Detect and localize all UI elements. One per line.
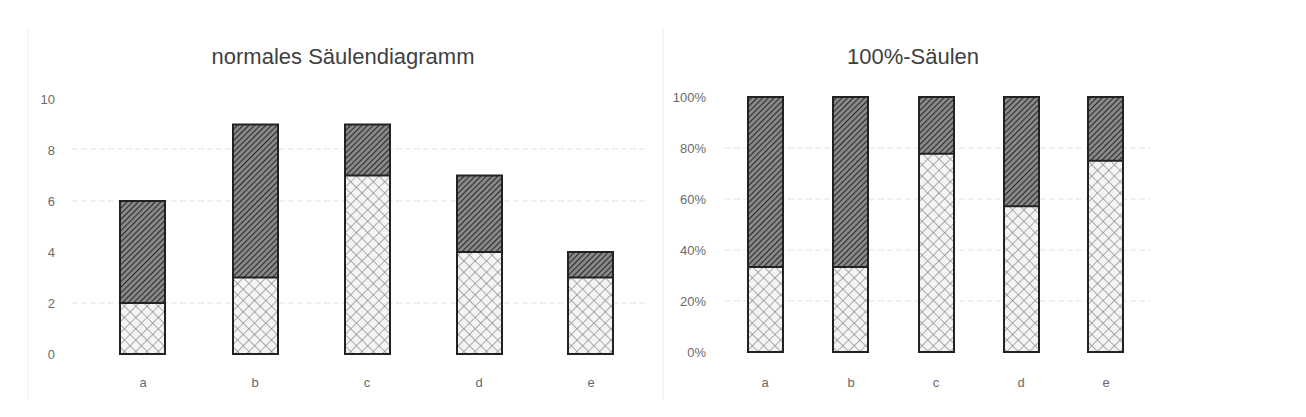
x-category: b [251, 375, 258, 390]
y-tick: 0 [48, 347, 55, 362]
left-chart: normales Säulendiagramm 0 2 4 6 8 10 [28, 28, 645, 400]
right-bar-c[interactable] [919, 97, 954, 352]
left-bar-a[interactable] [120, 201, 165, 354]
left-bar-b[interactable] [233, 125, 278, 355]
left-x-axis: a b c d e [139, 375, 594, 390]
y-tick: 10 [41, 92, 55, 107]
right-bar-e[interactable] [1088, 97, 1123, 352]
left-chart-title: normales Säulendiagramm [212, 44, 475, 69]
y-tick: 8 [48, 143, 55, 158]
left-bar-d[interactable] [457, 176, 502, 355]
y-tick: 6 [48, 194, 55, 209]
y-tick: 4 [48, 245, 55, 260]
left-bar-e[interactable] [568, 252, 613, 354]
y-tick: 80% [680, 141, 706, 156]
x-category: b [847, 375, 854, 390]
left-bar-c[interactable] [345, 125, 390, 355]
right-chart: 100%-Säulen 0% 20% 40% 60% 80% 100% [663, 28, 1150, 400]
x-category: e [1102, 375, 1109, 390]
charts-canvas: normales Säulendiagramm 0 2 4 6 8 10 [0, 0, 1306, 417]
x-category: e [587, 375, 594, 390]
right-bar-a[interactable] [748, 97, 783, 352]
y-tick: 100% [673, 90, 707, 105]
y-tick: 40% [680, 243, 706, 258]
right-bar-d[interactable] [1004, 97, 1039, 352]
left-y-axis: 0 2 4 6 8 10 [41, 92, 55, 362]
right-chart-title: 100%-Säulen [847, 44, 979, 69]
y-tick: 60% [680, 192, 706, 207]
right-y-axis: 0% 20% 40% 60% 80% 100% [673, 90, 707, 360]
right-x-axis: a b c d e [761, 375, 1109, 390]
right-bar-b[interactable] [833, 97, 868, 352]
x-category: d [1017, 375, 1024, 390]
x-category: d [475, 375, 482, 390]
x-category: a [761, 375, 769, 390]
y-tick: 20% [680, 294, 706, 309]
x-category: c [933, 375, 940, 390]
x-category: c [364, 375, 371, 390]
x-category: a [139, 375, 147, 390]
y-tick: 2 [48, 296, 55, 311]
y-tick: 0% [687, 345, 706, 360]
